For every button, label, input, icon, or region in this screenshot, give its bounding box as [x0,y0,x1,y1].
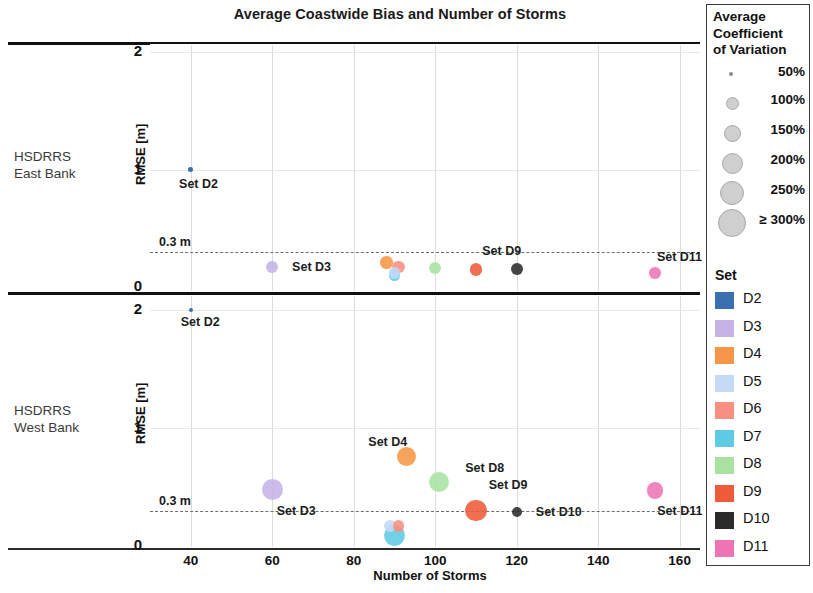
threshold-line [150,252,700,253]
row-label-east-bank: HSDRRS East Bank [14,148,124,182]
data-point-label: Set D9 [489,478,528,492]
legend-set-item-d11[interactable]: D11 [715,536,807,563]
legend-set-item-d8[interactable]: D8 [715,453,807,480]
legend-set-item-d7[interactable]: D7 [715,426,807,453]
legend-set-label: D10 [743,510,770,526]
legend-color-swatch [715,292,734,309]
data-point-d2[interactable] [189,308,193,312]
legend-size-item: 200% [707,149,811,175]
threshold-label: 0.3 m [159,235,191,249]
legend-size-bubble [720,181,744,205]
row-label-west-line1: HSDRRS [14,402,124,419]
legend-size-title-line1: Average [713,9,787,26]
data-point-d9[interactable] [470,263,483,276]
row-label-west-bank: HSDRRS West Bank [14,402,124,436]
legend-size-label: 50% [778,64,805,79]
data-point-label: Set D9 [482,244,521,258]
data-point-d3[interactable] [262,479,283,500]
x-gridline [598,45,599,291]
row-label-west-line2: West Bank [14,419,124,436]
data-point-d11[interactable] [649,267,660,278]
legend-size-title-line2: Coefficient [713,26,787,43]
chart-title: Average Coastwide Bias and Number of Sto… [150,6,650,22]
data-point-d10[interactable] [511,263,523,275]
legend-set-item-d6[interactable]: D6 [715,398,807,425]
legend-size-label: 200% [770,152,805,167]
x-gridline [354,45,355,291]
legend-set-item-d2[interactable]: D2 [715,288,807,315]
x-axis-tick-label: 60 [252,553,292,568]
legend-color-swatch [715,512,734,529]
legend-size-title: Average Coefficient of Variation [713,9,787,59]
y-axis-tick-label: 0 [112,277,142,294]
legend-size-item: 100% [707,89,811,115]
legend-color-swatch [715,375,734,392]
y-axis-tick-label: 0 [112,536,142,553]
data-point-d10[interactable] [512,507,522,517]
legend-set-label: D5 [743,373,762,389]
legend-panel: Average Coefficient of Variation 50%100%… [706,4,810,566]
x-axis-tick-label: 100 [415,553,455,568]
y-gridline [150,170,700,171]
panel-west-bank [150,299,700,546]
legend-set-item-d9[interactable]: D9 [715,481,807,508]
legend-set-item-d3[interactable]: D3 [715,316,807,343]
data-point-d5[interactable] [389,267,400,278]
legend-size-bubble [729,72,733,76]
data-point-d4[interactable] [380,256,393,269]
data-point-d6[interactable] [393,520,404,531]
y-axis-tick-label: 1 [112,160,142,177]
y-axis-tick-label: 2 [112,42,142,59]
x-axis-label: Number of Storms [330,568,530,583]
data-point-label: Set D2 [181,315,220,329]
legend-set-item-d4[interactable]: D4 [715,343,807,370]
legend-size-item: ≥ 300% [707,209,811,235]
data-point-label: Set D3 [292,260,331,274]
y-gridline [150,52,700,53]
x-axis-tick-label: 120 [497,553,537,568]
legend-color-swatch [715,540,734,557]
y-gridline [150,428,700,429]
legend-size-item: 150% [707,119,811,145]
x-gridline [354,296,355,547]
x-gridline [272,296,273,547]
legend-set-item-d5[interactable]: D5 [715,371,807,398]
data-point-d3[interactable] [266,261,278,273]
data-point-label: Set D8 [465,461,504,475]
legend-set-item-d10[interactable]: D10 [715,508,807,535]
legend-size-bubble [724,125,741,142]
legend-set-label: D8 [743,455,762,471]
legend-color-swatch [715,430,734,447]
row-label-east-line2: East Bank [14,165,124,182]
y-axis-tick-label: 1 [112,418,142,435]
legend-size-title-line3: of Variation [713,42,787,59]
row-label-east-line1: HSDRRS [14,148,124,165]
data-point-label: Set D10 [536,505,582,519]
x-axis-tick-label: 40 [171,553,211,568]
x-axis-tick-label: 160 [660,553,700,568]
x-gridline [435,296,436,547]
legend-color-swatch [715,457,734,474]
legend-set-label: D11 [743,538,769,554]
legend-color-swatch [715,320,734,337]
legend-size-item: 50% [707,61,811,87]
threshold-line [150,511,700,512]
x-axis-tick-label: 140 [578,553,618,568]
legend-color-swatch [715,347,734,364]
legend-color-title: Set [715,267,737,283]
threshold-label: 0.3 m [159,494,191,508]
legend-size-label: 250% [770,182,805,197]
x-axis-tick-label: 80 [334,553,374,568]
data-point-d9[interactable] [465,500,486,521]
legend-set-label: D7 [743,428,762,444]
x-gridline [435,45,436,291]
data-point-d11[interactable] [647,482,663,498]
data-point-d2[interactable] [188,167,193,172]
data-point-label: Set D11 [657,504,702,518]
data-point-label: Set D2 [179,177,218,191]
chart-figure: Average Coastwide Bias and Number of Sto… [0,0,813,593]
y-axis-tick-label: 2 [112,300,142,317]
legend-size-bubble [726,97,739,110]
legend-size-label: ≥ 300% [759,212,805,227]
legend-set-label: D6 [743,400,762,416]
